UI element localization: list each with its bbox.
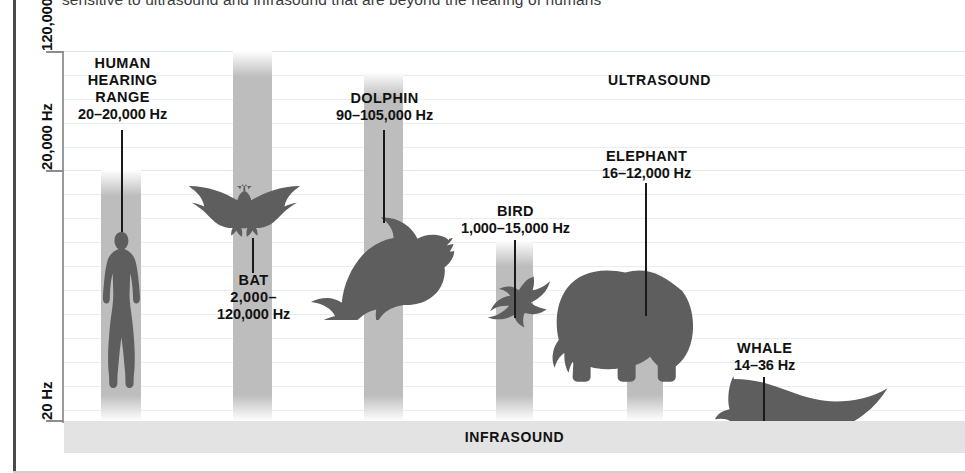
y-axis-line (62, 51, 64, 423)
leader-line (383, 130, 385, 223)
clipped-body-text: sensitive to ultrasound and infrasound t… (62, 0, 822, 9)
callout-title: BIRD (461, 203, 570, 220)
callout-title: 2,000– (217, 289, 290, 306)
callout-title: HUMAN (78, 55, 167, 72)
y-axis-tick-label: 20 Hz (38, 382, 55, 420)
bat-silhouette (185, 170, 321, 238)
gridline (64, 99, 965, 100)
leader-line (514, 240, 516, 318)
ultrasound-label: ULTRASOUND (608, 72, 711, 88)
callout-elephant: ELEPHANT16–12,000 Hz (602, 148, 691, 182)
callout-range: 1,000–15,000 Hz (461, 220, 570, 237)
infrasound-band: INFRASOUND (64, 421, 965, 453)
human-silhouette (93, 228, 151, 420)
callout-range: 120,000 Hz (217, 306, 290, 323)
callout-range: 14–36 Hz (734, 357, 795, 374)
leader-line (763, 377, 765, 424)
gridline (64, 147, 965, 148)
leader-line (121, 130, 123, 232)
y-axis-tick (46, 170, 64, 172)
infographic-canvas: sensitive to ultrasound and infrasound t… (0, 0, 965, 473)
y-axis-tick (46, 51, 64, 53)
callout-range: 20–20,000 Hz (78, 106, 167, 123)
callout-dolphin: DOLPHIN90–105,000 Hz (336, 90, 433, 124)
gridline (64, 123, 965, 124)
callout-bat: BAT2,000–120,000 Hz (217, 272, 290, 323)
callout-title: WHALE (734, 340, 795, 357)
y-axis-tick (46, 420, 64, 422)
callout-title: ELEPHANT (602, 148, 691, 165)
callout-title: DOLPHIN (336, 90, 433, 107)
callout-bird: BIRD1,000–15,000 Hz (461, 203, 570, 237)
callout-range: 16–12,000 Hz (602, 165, 691, 182)
callout-title: BAT (217, 272, 290, 289)
page-left-rule (13, 0, 16, 473)
bird-silhouette (477, 272, 555, 330)
callout-title: HEARING (78, 72, 167, 89)
callout-range: 90–105,000 Hz (336, 107, 433, 124)
elephant-silhouette (547, 258, 727, 390)
y-axis-tick-label: 120,000 Hz (38, 0, 55, 51)
leader-line (645, 183, 647, 316)
gridline (64, 75, 965, 76)
leader-line (252, 238, 254, 273)
callout-whale: WHALE14–36 Hz (734, 340, 795, 374)
dolphin-silhouette (305, 207, 455, 320)
gridline (64, 51, 965, 52)
y-axis-tick-label: 20,000 Hz (38, 103, 55, 170)
infrasound-label: INFRASOUND (64, 421, 965, 453)
callout-title: RANGE (78, 89, 167, 106)
callout-human-hearing-range: HUMANHEARINGRANGE20–20,000 Hz (78, 55, 167, 123)
